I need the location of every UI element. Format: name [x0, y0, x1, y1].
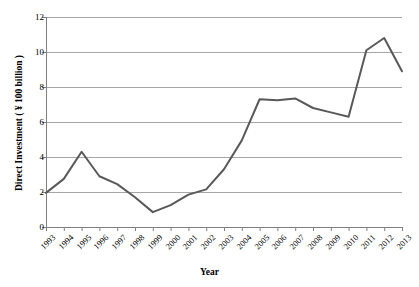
x-axis-title: Year — [0, 267, 419, 277]
x-tick-labels: 1993199419951996199719981999200020012002… — [0, 0, 419, 287]
chart-figure: Direct Investment ( ¥ 100 billion ) 0246… — [0, 0, 419, 287]
